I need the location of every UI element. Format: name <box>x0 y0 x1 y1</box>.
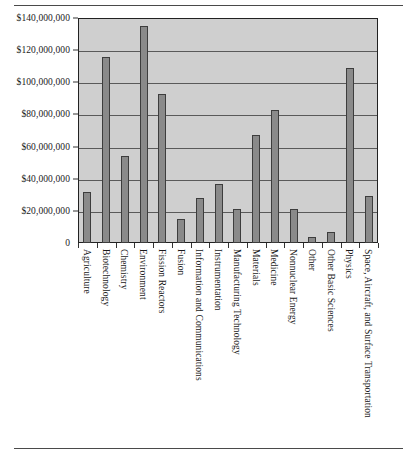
y-axis-tick-label: $120,000,000 <box>17 45 70 55</box>
y-axis-tick-label: $80,000,000 <box>21 109 70 119</box>
x-axis-category-label: Fusion <box>175 249 185 275</box>
x-axis-category-label: Medicine <box>269 249 279 286</box>
x-axis-tick-mark <box>97 243 98 248</box>
x-axis-tick-mark <box>322 243 323 248</box>
x-axis-category-label: Other <box>306 249 316 271</box>
bar-series <box>78 18 378 243</box>
y-axis-tick-label: $40,000,000 <box>21 174 70 184</box>
x-axis-tick-mark <box>228 243 229 248</box>
x-axis-tick-mark <box>116 243 117 248</box>
bar <box>327 232 335 243</box>
bar <box>252 135 260 243</box>
x-axis-category-label: Space, Aircraft, and Surface Transportat… <box>363 249 373 418</box>
x-axis-tick-mark <box>247 243 248 248</box>
y-axis-tick-label: $60,000,000 <box>21 142 70 152</box>
x-axis-category-labels: AgricultureBiotechnologyChemistryEnviron… <box>78 249 378 449</box>
y-axis-tick-label: $20,000,000 <box>21 206 70 216</box>
bar <box>290 209 298 243</box>
x-axis-category-label: Biotechnology <box>100 249 110 306</box>
x-axis-category-label: Fission Reactors <box>156 249 166 314</box>
bar <box>158 94 166 243</box>
x-axis-category-label: Information and Communications <box>194 249 204 381</box>
x-axis-tick-mark <box>266 243 267 248</box>
x-axis-tick-mark <box>134 243 135 248</box>
bar <box>177 219 185 243</box>
bar-chart-figure: 0$20,000,000$40,000,000$60,000,000$80,00… <box>0 0 417 463</box>
x-axis-tick-mark <box>153 243 154 248</box>
bar <box>121 156 129 243</box>
x-axis-tick-mark <box>284 243 285 248</box>
bar <box>83 192 91 243</box>
x-axis-tick-mark <box>378 243 379 248</box>
x-axis-tick-mark <box>209 243 210 248</box>
x-axis-category-label: Nonnuclear Energy <box>288 249 298 325</box>
x-axis-category-label: Chemistry <box>119 249 129 289</box>
x-axis-tick-mark <box>303 243 304 248</box>
bar <box>233 209 241 243</box>
y-axis: 0$20,000,000$40,000,000$60,000,000$80,00… <box>0 0 78 260</box>
x-axis-category-label: Other Basic Sciences <box>325 249 335 332</box>
y-axis-tick-label: $100,000,000 <box>17 77 70 87</box>
bar <box>196 198 204 243</box>
y-axis-tick-label: $140,000,000 <box>17 13 70 23</box>
x-axis-tick-mark <box>172 243 173 248</box>
x-axis-category-label: Agriculture <box>81 249 91 294</box>
bar <box>271 110 279 243</box>
x-axis-category-label: Physics <box>344 249 354 279</box>
x-axis-tick-mark <box>341 243 342 248</box>
x-axis-category-label: Materials <box>250 249 260 286</box>
y-axis-tick-label: 0 <box>65 238 70 248</box>
x-axis-tick-mark <box>191 243 192 248</box>
x-axis-tick-mark <box>359 243 360 248</box>
bar <box>215 184 223 243</box>
bar <box>140 26 148 243</box>
x-axis-category-label: Instrumentation <box>213 249 223 311</box>
bar <box>102 57 110 243</box>
bar <box>365 196 373 243</box>
bar <box>346 68 354 243</box>
x-axis-tick-mark <box>78 243 79 248</box>
x-axis-category-label: Manufacturing Technology <box>231 249 241 355</box>
x-axis-category-label: Environment <box>138 249 148 300</box>
